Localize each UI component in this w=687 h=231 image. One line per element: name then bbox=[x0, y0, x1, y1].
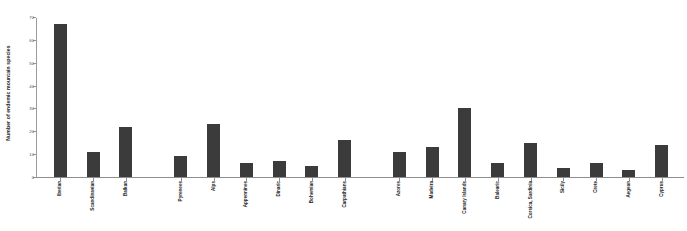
bar bbox=[87, 152, 100, 177]
y-tick-label: 50 bbox=[29, 62, 34, 66]
bar bbox=[119, 127, 132, 177]
bar bbox=[622, 170, 635, 177]
x-tick-label-text: Iberian bbox=[58, 181, 63, 196]
x-tick-label-text: Scandinavian bbox=[91, 181, 96, 211]
x-axis-labels: IberianScandinavianBalkanPyreneesAlpsApp… bbox=[36, 181, 684, 231]
bar bbox=[393, 152, 406, 177]
bar bbox=[458, 108, 471, 177]
x-tick-label-text: Bohemian bbox=[310, 181, 315, 203]
x-tick-label-text: Corsica, Sardinia bbox=[528, 181, 533, 219]
y-tick-label: 70 bbox=[29, 16, 34, 20]
x-tick-label-text: Appennines bbox=[244, 181, 249, 207]
x-tick-label-text: Balearic bbox=[495, 181, 500, 199]
bar bbox=[54, 24, 67, 177]
bar bbox=[426, 147, 439, 177]
bar bbox=[273, 161, 286, 177]
x-tick-label-text: Canary Islands bbox=[463, 181, 468, 214]
y-axis-title-text: Number of endemic mountain species bbox=[5, 45, 11, 140]
bar bbox=[557, 168, 570, 177]
bar bbox=[590, 163, 603, 177]
bar bbox=[491, 163, 504, 177]
y-tick-label: 10 bbox=[29, 153, 34, 157]
x-axis-line bbox=[36, 177, 684, 178]
bar bbox=[305, 166, 318, 177]
x-tick-label-text: Dinaric bbox=[277, 181, 282, 197]
y-tick-label: 20 bbox=[29, 130, 34, 134]
bar bbox=[655, 145, 668, 177]
bar bbox=[240, 163, 253, 177]
y-tick-label: 40 bbox=[29, 84, 34, 88]
bar bbox=[338, 140, 351, 177]
x-tick-label-text: Aegean bbox=[627, 181, 632, 198]
y-tick-label: 60 bbox=[29, 39, 34, 43]
x-tick-label-text: Azores bbox=[397, 181, 402, 196]
bar bbox=[174, 156, 187, 177]
y-tick-label: 0 bbox=[32, 176, 34, 180]
x-tick-label-text: Madeira bbox=[430, 181, 435, 198]
x-tick-label-text: Balkan bbox=[124, 181, 129, 196]
x-tick-label-text: Cyprus bbox=[659, 181, 664, 197]
bar bbox=[207, 124, 220, 177]
x-tick-label-text: Sicily bbox=[561, 181, 566, 193]
plot-area: 010203040506070 bbox=[36, 18, 684, 178]
y-axis-line bbox=[36, 18, 37, 178]
x-tick-label-text: Carpathians bbox=[342, 181, 347, 208]
x-tick-label-text: Pyrenees bbox=[178, 181, 183, 201]
x-tick-label-text: Crete bbox=[594, 181, 599, 193]
bar bbox=[524, 143, 537, 177]
y-tick-label: 30 bbox=[29, 107, 34, 111]
bar-chart: Number of endemic mountain species 01020… bbox=[0, 0, 687, 231]
y-axis-title: Number of endemic mountain species bbox=[0, 0, 16, 185]
x-tick-label-text: Alps bbox=[211, 181, 216, 191]
